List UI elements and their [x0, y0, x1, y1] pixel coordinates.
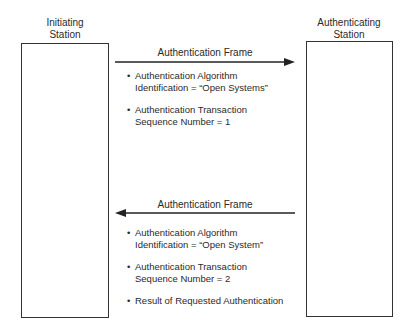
- response-field-result: Result of Requested Authentication: [127, 295, 283, 307]
- response-field-sequence: Authentication Transaction Sequence Numb…: [127, 261, 283, 285]
- request-frame-fields: Authentication Algorithm Identification …: [127, 70, 268, 138]
- response-field-algorithm: Authentication Algorithm Identification …: [127, 227, 283, 251]
- request-frame-label: Authentication Frame: [115, 47, 295, 58]
- response-frame-label: Authentication Frame: [115, 199, 295, 210]
- response-arrow: [115, 209, 295, 217]
- response-frame-fields: Authentication Algorithm Identification …: [127, 227, 283, 317]
- request-arrow: [115, 58, 295, 66]
- request-field-algorithm: Authentication Algorithm Identification …: [127, 70, 268, 94]
- request-field-sequence: Authentication Transaction Sequence Numb…: [127, 104, 268, 128]
